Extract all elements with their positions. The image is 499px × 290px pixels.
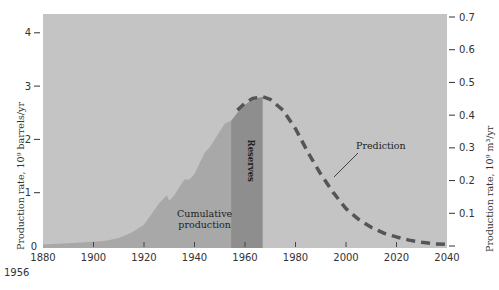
y-tick-label-right: 0.7 bbox=[459, 12, 475, 23]
prediction-label: Prediction bbox=[356, 140, 406, 151]
y-tick-label-right: 0.6 bbox=[459, 44, 475, 55]
cumulative-production-label: production bbox=[178, 219, 231, 230]
x-tick-label: 1960 bbox=[232, 252, 257, 263]
cumulative-production-label: Cumulative bbox=[177, 208, 232, 219]
y-axis-left-title: Production rate, 10⁹ barrels/yr bbox=[15, 102, 26, 250]
y-tick-label-left: 0 bbox=[31, 241, 37, 252]
x-tick-label: 1880 bbox=[30, 252, 55, 263]
y-tick-label-right: 0.4 bbox=[459, 110, 475, 121]
x-axis-footnote: 1956 bbox=[4, 267, 29, 278]
y-axis-right: 0.10.20.30.40.50.60.7 bbox=[449, 12, 475, 247]
x-tick-label: 1940 bbox=[182, 252, 207, 263]
x-tick-label: 1980 bbox=[283, 252, 308, 263]
x-tick-label: 1920 bbox=[131, 252, 156, 263]
x-tick-label: 1900 bbox=[81, 252, 106, 263]
y-tick-label-left: 3 bbox=[25, 81, 31, 92]
x-tick-label: 2000 bbox=[333, 252, 358, 263]
x-tick-label: 2040 bbox=[434, 252, 459, 263]
y-tick-label-right: 0.5 bbox=[459, 77, 475, 88]
y-tick-label-left: 4 bbox=[25, 27, 31, 38]
y-tick-label-right: 0.2 bbox=[459, 175, 475, 186]
y-tick-label-right: 0.1 bbox=[459, 208, 475, 219]
y-axis-right-title: Production rate, 10⁹ m³/yr bbox=[484, 125, 495, 252]
reserves-label: Reserves bbox=[246, 140, 256, 182]
y-axis-left: 01234 bbox=[25, 27, 40, 251]
oil-production-chart: 188019001920194019601980200020202040 012… bbox=[0, 0, 499, 290]
y-tick-label-right: 0.3 bbox=[459, 142, 475, 153]
x-tick-label: 2020 bbox=[384, 252, 409, 263]
